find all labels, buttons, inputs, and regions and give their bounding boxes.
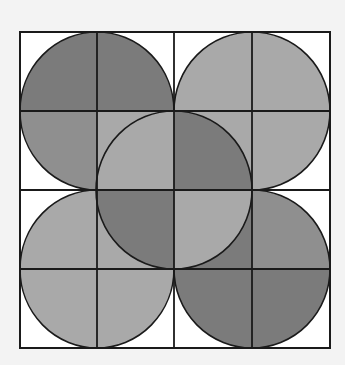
diagram-canvas: [0, 0, 345, 365]
circle-grid-diagram: Five overlapping circles on a 4x4 grid: [0, 0, 345, 365]
